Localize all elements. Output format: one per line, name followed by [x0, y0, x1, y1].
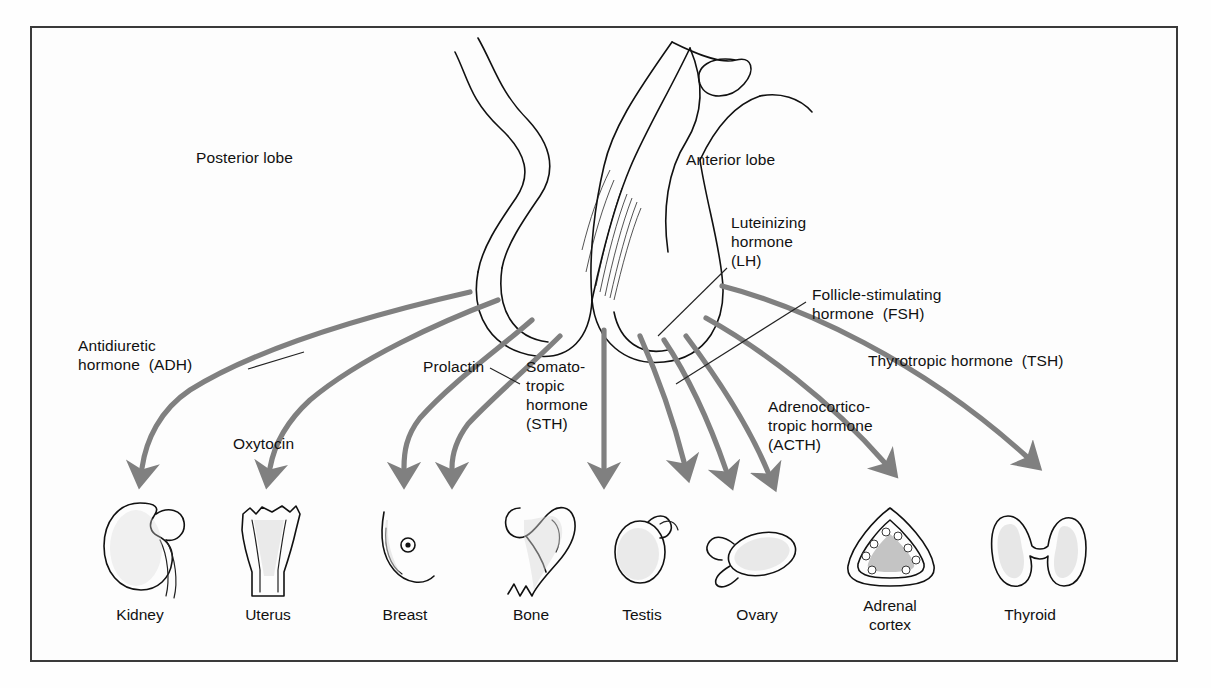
- organ-kidney-illustration: [104, 503, 184, 598]
- arrow-fsh: [664, 340, 726, 470]
- label-organ-testis: Testis: [592, 605, 692, 624]
- organ-thyroid-illustration: [992, 516, 1086, 586]
- organ-breast-illustration: [382, 512, 434, 582]
- label-anterior-lobe: Anterior lobe: [686, 150, 775, 169]
- label-organ-kidney: Kidney: [90, 605, 190, 624]
- organ-bone-illustration: [506, 508, 575, 596]
- label-hormone-lh: Luteinizing hormone (LH): [731, 213, 806, 270]
- organ-uterus-illustration: [242, 506, 300, 596]
- label-hormone-tsh: Thyrotropic hormone (TSH): [868, 351, 1064, 370]
- label-hormone-prolactin: Prolactin: [423, 357, 484, 376]
- label-organ-adrenal-cortex: Adrenal cortex: [840, 596, 940, 634]
- label-posterior-lobe: Posterior lobe: [196, 148, 293, 167]
- arrow-oxytocin: [270, 300, 498, 468]
- label-organ-thyroid: Thyroid: [980, 605, 1080, 624]
- label-hormone-fsh: Follicle-stimulating hormone (FSH): [812, 285, 941, 323]
- label-organ-bone: Bone: [481, 605, 581, 624]
- figure-canvas: .ol{fill:none;stroke:#111;stroke-width:1…: [0, 0, 1211, 688]
- label-hormone-sth: Somato- tropic hormone (STH): [526, 357, 588, 433]
- arrow-adh: [142, 292, 470, 468]
- arrow-prolactin: [404, 320, 532, 468]
- label-organ-ovary: Ovary: [707, 605, 807, 624]
- organ-adrenal-cortex-illustration: [848, 508, 934, 586]
- arrow-lh: [640, 336, 684, 462]
- label-organ-uterus: Uterus: [218, 605, 318, 624]
- label-hormone-adh: Antidiuretic hormone (ADH): [78, 336, 192, 374]
- organ-testis-illustration: [615, 516, 678, 583]
- organ-ovary-illustration: [707, 526, 800, 586]
- label-organ-breast: Breast: [355, 605, 455, 624]
- label-hormone-oxytocin: Oxytocin: [233, 434, 294, 453]
- pituitary-gland-illustration: [455, 38, 812, 362]
- label-hormone-acth: Adrenocortico- tropic hormone (ACTH): [768, 397, 873, 454]
